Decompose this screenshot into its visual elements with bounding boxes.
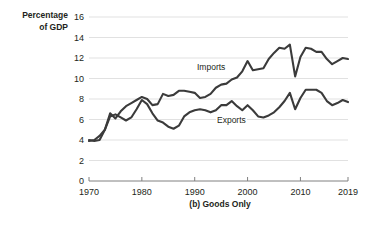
chart-figure: Percentage of GDP 1614121086420 19701980… [0,0,380,229]
y-tick-label: 4 [66,135,84,145]
y-tick-label: 10 [66,74,84,84]
exports-label: Exports [216,115,247,125]
y-tick-label: 12 [66,53,84,63]
x-tick-label: 1980 [122,187,162,197]
x-tick-label: 2019 [328,187,368,197]
y-tick-label: 16 [66,12,84,22]
series-line-imports [89,45,348,141]
y-tick-label: 6 [66,115,84,125]
x-tick-label: 2000 [228,187,268,197]
y-tick-label: 8 [66,94,84,104]
x-tick-label: 1970 [69,187,109,197]
y-tick-label: 0 [66,176,84,186]
y-tick-label: 14 [66,33,84,43]
figure-caption: (b) Goods Only [90,199,350,209]
series-lines [89,45,348,141]
imports-label: Imports [196,62,226,72]
x-axis [89,177,348,181]
y-tick-label: 2 [66,156,84,166]
x-tick-label: 2010 [280,187,320,197]
x-tick-label: 1990 [175,187,215,197]
